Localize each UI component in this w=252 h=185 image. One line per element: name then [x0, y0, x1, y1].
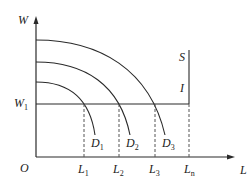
wage-label-w1: W1 — [14, 96, 28, 112]
x-axis-label: L — [239, 163, 247, 177]
demand-curve-d3 — [36, 40, 165, 135]
y-axis-label: W — [18, 13, 29, 27]
demand-label-d3: D3 — [161, 136, 175, 152]
demand-label-d2: D2 — [125, 136, 139, 152]
y-axis-arrow-icon — [34, 16, 39, 24]
x-tick-l2: L2 — [112, 162, 124, 178]
x-tick-l3: L3 — [148, 162, 160, 178]
x-tick-l1: L1 — [77, 162, 89, 178]
x-tick-ln: Ln — [183, 162, 195, 178]
labor-market-diagram: W L O W1 S I D1 D2 D3 L1 L2 L3 Ln — [0, 0, 252, 185]
x-axis-arrow-icon — [227, 155, 235, 160]
demand-label-d1: D1 — [90, 136, 104, 152]
origin-label: O — [20, 161, 29, 175]
demand-curve-d2 — [36, 62, 130, 135]
supply-label-s: S — [179, 50, 185, 64]
demand-curve-d1 — [36, 82, 95, 135]
supply-label-i: I — [179, 81, 185, 95]
